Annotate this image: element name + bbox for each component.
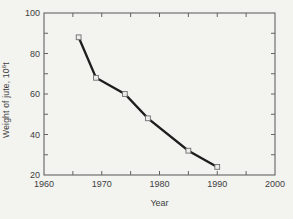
- x-axis-label: Year: [150, 198, 168, 208]
- y-tick-label: 40: [30, 130, 40, 140]
- x-tick-label: 2000: [265, 179, 285, 189]
- jute-weight-figure: 1960197019801990200020406080100YearWeigh…: [0, 0, 293, 219]
- data-point-marker: [94, 75, 99, 80]
- data-point-marker: [215, 165, 220, 170]
- y-tick-label: 100: [25, 8, 40, 18]
- y-tick-label: 60: [30, 89, 40, 99]
- data-point-marker: [186, 148, 191, 153]
- data-line: [79, 37, 218, 167]
- data-point-marker: [76, 35, 81, 40]
- jute-weight-line-chart: 1960197019801990200020406080100YearWeigh…: [0, 0, 293, 219]
- y-tick-label: 80: [30, 49, 40, 59]
- y-axis-label: Weight of jute, 106t: [0, 62, 11, 138]
- x-tick-label: 1990: [207, 179, 227, 189]
- x-tick-label: 1980: [149, 179, 169, 189]
- data-point-marker: [146, 116, 151, 121]
- data-point-marker: [122, 92, 127, 97]
- x-tick-label: 1960: [34, 179, 54, 189]
- x-tick-label: 1970: [92, 179, 112, 189]
- y-tick-label: 20: [30, 170, 40, 180]
